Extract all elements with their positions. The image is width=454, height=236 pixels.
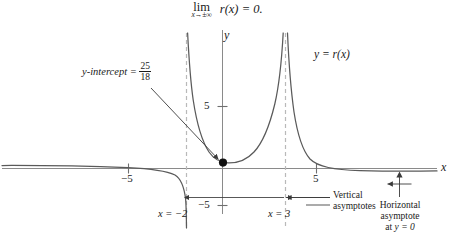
y-intercept-annotation: y-intercept = 25 18 <box>82 62 151 84</box>
horizontal-asymptote-note-line3: at y = 0 <box>367 222 433 233</box>
y-tick-label-neg5: −5 <box>198 198 210 210</box>
x-tick-label-neg5: −5 <box>121 172 133 184</box>
horizontal-asymptote-at-prefix: at <box>385 222 394 232</box>
y-intercept-point <box>219 159 227 167</box>
horizontal-asymptote-note-line1: Horizontal <box>367 200 433 211</box>
y-axis-label: y <box>224 28 229 43</box>
y-tick-label-pos5: 5 <box>204 99 210 111</box>
y-intercept-numerator: 25 <box>139 61 151 71</box>
asymptote-label-x-neg2: x = −2 <box>158 208 187 219</box>
horizontal-asymptote-note-line2: asymptote <box>367 211 433 222</box>
function-label: y = r(x) <box>314 48 350 60</box>
y-intercept-denominator: 18 <box>139 71 151 82</box>
y-intercept-fraction: 25 18 <box>139 61 151 83</box>
x-tick-label-pos5: 5 <box>313 172 319 184</box>
curve-middle-branch <box>188 33 284 163</box>
asymptote-label-x-pos3: x = 3 <box>268 208 290 219</box>
horizontal-asymptote-note: Horizontal asymptote at y = 0 <box>367 200 433 233</box>
horizontal-asymptote-equation: y = 0 <box>395 222 415 232</box>
curve-right-branch <box>288 33 438 171</box>
rational-function-figure: lim x→±∞ r(x) = 0. <box>0 0 454 236</box>
y-intercept-text: y-intercept = <box>82 66 137 77</box>
x-axis-label: x <box>441 160 446 175</box>
horizontal-asymptote-arrowhead <box>396 172 402 178</box>
